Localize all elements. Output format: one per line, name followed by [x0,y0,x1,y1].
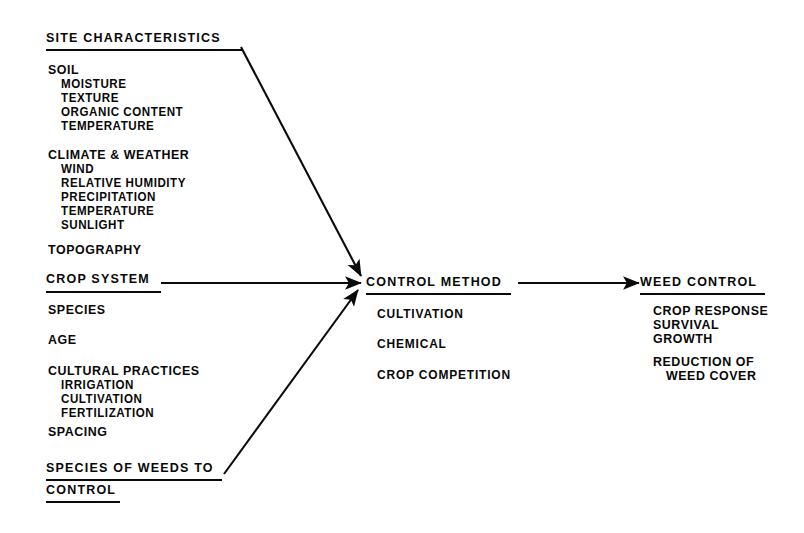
list-item-irrigation: IRRIGATION [61,379,134,392]
list-item-climate-temperature: TEMPERATURE [61,205,154,218]
list-item-cultivation-practice: CULTIVATION [61,393,142,406]
group-label-soil: SOIL [48,63,79,77]
list-item-cultivation: CULTIVATION [377,307,464,320]
heading-species-of-weeds-line1: SPECIES OF WEEDS TO [46,461,214,475]
list-item-growth: GROWTH [653,332,713,346]
list-item-survival: SURVIVAL [653,318,719,332]
list-item-wind: WIND [61,163,94,176]
list-item-organic-content: ORGANIC CONTENT [61,106,183,119]
list-item-sunlight: SUNLIGHT [61,219,125,232]
list-item-reduction-of: REDUCTION OF [653,355,754,369]
group-label-spacing: SPACING [48,425,108,439]
list-item-crop-response: CROP RESPONSE [653,304,768,318]
heading-weed-control: WEED CONTROL [640,275,757,289]
list-item-fertilization: FERTILIZATION [61,407,154,420]
list-item-soil-temperature: TEMPERATURE [61,120,154,133]
group-label-topography: TOPOGRAPHY [48,243,142,257]
list-item-relative-humidity: RELATIVE HUMIDITY [61,177,186,190]
underline-weed-control [640,293,765,295]
heading-site-characteristics: SITE CHARACTERISTICS [46,31,221,45]
group-label-cultural-practices: CULTURAL PRACTICES [48,364,200,378]
group-label-climate-and-weather: CLIMATE & WEATHER [48,148,189,162]
underline-species-of-weeds-line1 [46,479,222,481]
list-item-weed-cover: WEED COVER [666,369,756,383]
group-label-species: SPECIES [48,303,106,317]
diagram-canvas: SITE CHARACTERISTICS SOIL MOISTURE TEXTU… [0,0,804,533]
arrow-site-characteristics-to-control-method [241,47,361,276]
underline-crop-system [46,291,161,293]
heading-crop-system: CROP SYSTEM [46,272,150,286]
list-item-texture: TEXTURE [61,92,119,105]
list-item-crop-competition: CROP COMPETITION [377,368,511,381]
heading-species-of-weeds-line2: CONTROL [46,483,116,497]
list-item-moisture: MOISTURE [61,78,127,91]
underline-control-method [366,293,511,295]
group-label-age: AGE [48,333,77,347]
list-item-precipitation: PRECIPITATION [61,191,156,204]
heading-control-method: CONTROL METHOD [366,275,502,289]
list-item-chemical: CHEMICAL [377,337,447,350]
underline-site-characteristics [46,49,242,51]
underline-species-of-weeds-line2 [46,501,120,503]
arrow-species-of-weeds-to-control-method [224,290,358,474]
